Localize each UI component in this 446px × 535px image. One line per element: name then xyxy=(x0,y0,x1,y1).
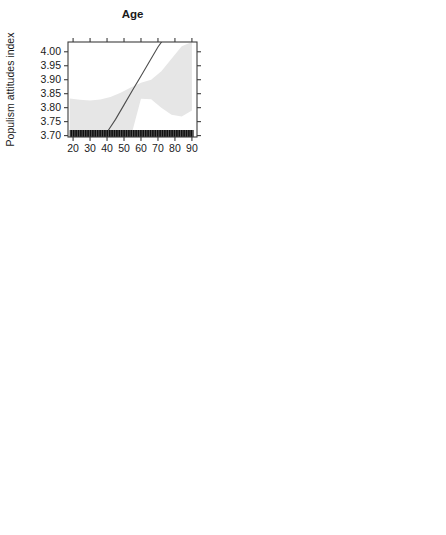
x-tick-label: 70 xyxy=(152,142,164,154)
panel-age: AgePopulism attitudes index4.003.953.903… xyxy=(0,0,223,178)
x-tick-label: 40 xyxy=(101,142,113,154)
x-tick-label: 30 xyxy=(84,142,96,154)
y-tick-label: 3.80 xyxy=(41,101,62,113)
y-tick-label: 3.95 xyxy=(41,59,62,71)
confidence-band xyxy=(70,42,192,137)
y-tick-label: 3.90 xyxy=(41,73,62,85)
y-tick-label: 3.70 xyxy=(41,129,62,141)
x-tick-label: 20 xyxy=(67,142,79,154)
populism-attitudes-figure: AgePopulism attitudes index4.003.953.903… xyxy=(0,0,446,535)
x-tick-label: 50 xyxy=(118,142,130,154)
rug-plot xyxy=(70,130,194,137)
panel-title: Age xyxy=(122,8,144,20)
y-tick-label: 3.75 xyxy=(41,115,62,127)
x-tick-label: 90 xyxy=(186,142,198,154)
y-tick-label: 3.85 xyxy=(41,87,62,99)
x-tick-label: 60 xyxy=(135,142,147,154)
y-axis-label: Populism attitudes index xyxy=(4,32,16,147)
y-tick-label: 4.00 xyxy=(41,45,62,57)
x-tick-label: 80 xyxy=(169,142,181,154)
